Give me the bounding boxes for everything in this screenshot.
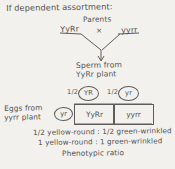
sperm-gamete-fraction-2: 1/2 [107,88,118,96]
parent-genotype-right: yyrr [121,25,138,35]
phenotypic-ratio-caption: Phenotypic ratio [62,148,124,158]
ratio-line-2: 1 yellow-round : 1 green-wrinkled [38,136,162,147]
cross-symbol: × [96,26,102,35]
punnett-cell-1: YyRr [74,104,115,125]
parent-genotype-left: YyRr [60,24,79,34]
page-title: If dependent assortment: [6,1,113,13]
eggs-label-line2: yyrr plant [4,112,41,122]
ratio-line-1: 1/2 yellow-round : 1/2 green-wrinkled [33,126,172,137]
parents-label: Parents [83,15,111,24]
punnett-cell-2: yyrr [113,104,154,125]
sperm-label-line2: YyRr plant [76,69,116,79]
genetics-diagram: If dependent assortment: Parents YyRr × … [0,0,175,169]
sperm-gamete-fraction-1: 1/2 [67,88,78,96]
